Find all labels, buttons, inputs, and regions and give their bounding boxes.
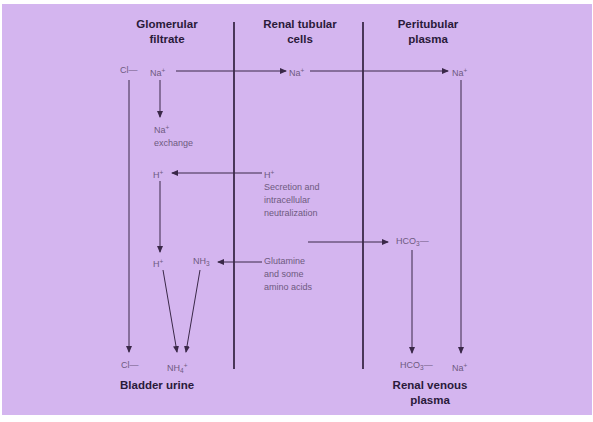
- heading-peritubular-plasma: Peritubular plasma: [378, 17, 478, 47]
- label-na-exchange: Na+ exchange: [154, 121, 193, 150]
- label-glutamine: Glutamine and some amino acids: [264, 255, 312, 294]
- heading-renal-tubular-cells: Renal tubular cells: [250, 17, 350, 47]
- label-na-cell: Na+: [289, 64, 304, 80]
- label-h-lower: H+: [153, 255, 163, 271]
- label-h-filtrate: H+: [153, 166, 163, 182]
- label-cl-filtrate: Cl—: [120, 64, 138, 77]
- label-na-plasma: Na+: [452, 64, 467, 80]
- arrow-h-to-nh4: [163, 270, 177, 352]
- label-na-filtrate: Na+: [150, 64, 165, 80]
- label-hco3-plasma: HCO3—: [396, 235, 429, 250]
- label-nh3: NH3: [193, 255, 210, 270]
- label-nh4-urine: NH4+: [167, 359, 187, 377]
- heading-glomerular-filtrate: Glomerular filtrate: [122, 17, 212, 47]
- arrow-nh3-to-nh4: [186, 270, 200, 352]
- heading-renal-venous-plasma: Renal venous plasma: [380, 378, 480, 408]
- label-cl-urine: Cl—: [121, 359, 139, 372]
- heading-bladder-urine: Bladder urine: [120, 378, 220, 393]
- label-hco3-venous: HCO3—: [400, 359, 433, 374]
- label-h-cell: H+: [264, 166, 274, 182]
- label-na-venous: Na+: [452, 359, 467, 375]
- label-secretion: Secretion and intracellular neutralizati…: [264, 181, 320, 220]
